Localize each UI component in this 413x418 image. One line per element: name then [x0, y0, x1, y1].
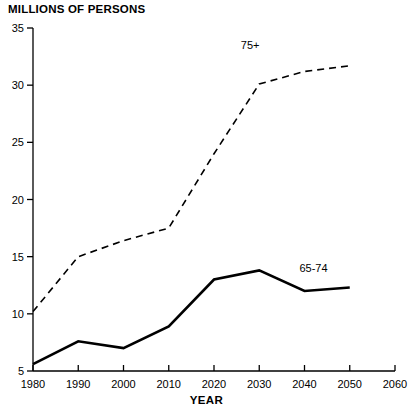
x-tick-label: 1990 — [66, 378, 90, 390]
x-tick-label: 2060 — [383, 378, 407, 390]
chart-container: MILLIONS OF PERSONS 5101520253035 198019… — [0, 0, 413, 418]
series-label-65-74: 65-74 — [299, 262, 327, 274]
x-axis-ticks: 198019902000201020202030204020502060 — [21, 365, 407, 390]
series-line-75- — [33, 66, 350, 312]
x-axis-title: YEAR — [0, 394, 413, 406]
series-label-75-: 75+ — [241, 39, 260, 51]
series-line-65-74 — [33, 270, 350, 364]
chart-plot-area: 5101520253035 19801990200020102020203020… — [0, 0, 413, 418]
y-tick-label: 15 — [12, 251, 24, 263]
chart-series-group — [33, 66, 350, 364]
y-tick-label: 35 — [12, 22, 24, 34]
x-tick-label: 2040 — [292, 378, 316, 390]
y-tick-label: 20 — [12, 194, 24, 206]
x-tick-label: 2050 — [338, 378, 362, 390]
y-tick-label: 10 — [12, 308, 24, 320]
x-tick-label: 1980 — [21, 378, 45, 390]
y-tick-label: 5 — [18, 365, 24, 377]
y-tick-label: 30 — [12, 79, 24, 91]
y-tick-label: 25 — [12, 136, 24, 148]
chart-series-labels: 75+65-74 — [241, 39, 328, 274]
x-tick-label: 2030 — [247, 378, 271, 390]
x-tick-label: 2000 — [111, 378, 135, 390]
y-axis-ticks: 5101520253035 — [12, 22, 33, 377]
x-tick-label: 2010 — [157, 378, 181, 390]
x-tick-label: 2020 — [202, 378, 226, 390]
